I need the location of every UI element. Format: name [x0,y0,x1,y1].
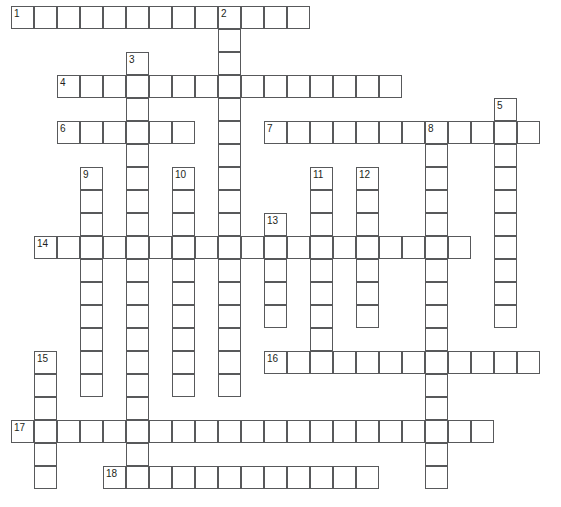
crossword-cell[interactable] [425,397,448,420]
crossword-cell[interactable] [494,259,517,282]
crossword-cell[interactable] [34,420,57,443]
crossword-cell[interactable] [218,305,241,328]
crossword-cell[interactable] [149,6,172,29]
crossword-cell[interactable] [379,351,402,374]
crossword-cell[interactable] [310,351,333,374]
crossword-cell[interactable] [264,466,287,489]
crossword-cell[interactable] [149,121,172,144]
crossword-cell[interactable] [172,236,195,259]
crossword-cell[interactable] [333,466,356,489]
crossword-cell[interactable] [149,420,172,443]
crossword-cell[interactable] [172,466,195,489]
crossword-cell[interactable] [310,305,333,328]
crossword-cell[interactable] [218,236,241,259]
crossword-cell[interactable] [287,6,310,29]
crossword-cell[interactable] [379,236,402,259]
crossword-cell[interactable] [172,167,195,190]
crossword-cell[interactable] [425,190,448,213]
crossword-cell[interactable] [57,75,80,98]
crossword-cell[interactable] [80,236,103,259]
crossword-cell[interactable] [264,420,287,443]
crossword-cell[interactable] [218,351,241,374]
crossword-cell[interactable] [34,466,57,489]
crossword-cell[interactable] [80,259,103,282]
crossword-cell[interactable] [333,351,356,374]
crossword-cell[interactable] [402,236,425,259]
crossword-cell[interactable] [264,351,287,374]
crossword-cell[interactable] [80,121,103,144]
crossword-cell[interactable] [80,328,103,351]
crossword-cell[interactable] [264,75,287,98]
crossword-cell[interactable] [425,259,448,282]
crossword-cell[interactable] [425,121,448,144]
crossword-cell[interactable] [425,443,448,466]
crossword-cell[interactable] [195,75,218,98]
crossword-cell[interactable] [379,75,402,98]
crossword-cell[interactable] [172,328,195,351]
crossword-cell[interactable] [448,236,471,259]
crossword-cell[interactable] [126,236,149,259]
crossword-cell[interactable] [126,443,149,466]
crossword-cell[interactable] [195,420,218,443]
crossword-cell[interactable] [402,121,425,144]
crossword-cell[interactable] [494,236,517,259]
crossword-cell[interactable] [34,443,57,466]
crossword-cell[interactable] [195,6,218,29]
crossword-cell[interactable] [310,420,333,443]
crossword-cell[interactable] [264,121,287,144]
crossword-cell[interactable] [241,6,264,29]
crossword-cell[interactable] [448,420,471,443]
crossword-cell[interactable] [80,420,103,443]
crossword-cell[interactable] [218,420,241,443]
crossword-cell[interactable] [517,351,540,374]
crossword-cell[interactable] [356,282,379,305]
crossword-cell[interactable] [34,374,57,397]
crossword-cell[interactable] [425,374,448,397]
crossword-cell[interactable] [126,282,149,305]
crossword-cell[interactable] [34,236,57,259]
crossword-cell[interactable] [379,420,402,443]
crossword-cell[interactable] [264,236,287,259]
crossword-cell[interactable] [172,305,195,328]
crossword-grid-layer[interactable]: 123456789101112131415161718 [0,0,561,507]
crossword-cell[interactable] [494,305,517,328]
crossword-cell[interactable] [264,213,287,236]
crossword-cell[interactable] [126,6,149,29]
crossword-cell[interactable] [310,259,333,282]
crossword-cell[interactable] [172,259,195,282]
crossword-cell[interactable] [356,75,379,98]
crossword-cell[interactable] [287,420,310,443]
crossword-cell[interactable] [494,351,517,374]
crossword-cell[interactable] [356,305,379,328]
crossword-cell[interactable] [471,121,494,144]
crossword-cell[interactable] [172,420,195,443]
crossword-cell[interactable] [402,351,425,374]
crossword-cell[interactable] [425,144,448,167]
crossword-cell[interactable] [425,420,448,443]
crossword-cell[interactable] [287,236,310,259]
crossword-cell[interactable] [471,420,494,443]
crossword-cell[interactable] [80,75,103,98]
crossword-cell[interactable] [218,52,241,75]
crossword-cell[interactable] [195,236,218,259]
crossword-cell[interactable] [80,167,103,190]
crossword-cell[interactable] [356,351,379,374]
crossword-cell[interactable] [57,236,80,259]
crossword-cell[interactable] [126,121,149,144]
crossword-cell[interactable] [218,98,241,121]
crossword-cell[interactable] [195,466,218,489]
crossword-cell[interactable] [356,121,379,144]
crossword-cell[interactable] [149,236,172,259]
crossword-cell[interactable] [264,282,287,305]
crossword-cell[interactable] [80,374,103,397]
crossword-cell[interactable] [333,236,356,259]
crossword-cell[interactable] [80,213,103,236]
crossword-cell[interactable] [241,466,264,489]
crossword-cell[interactable] [80,351,103,374]
crossword-cell[interactable] [103,420,126,443]
crossword-cell[interactable] [310,190,333,213]
crossword-cell[interactable] [218,190,241,213]
crossword-cell[interactable] [448,351,471,374]
crossword-cell[interactable] [356,259,379,282]
crossword-cell[interactable] [103,6,126,29]
